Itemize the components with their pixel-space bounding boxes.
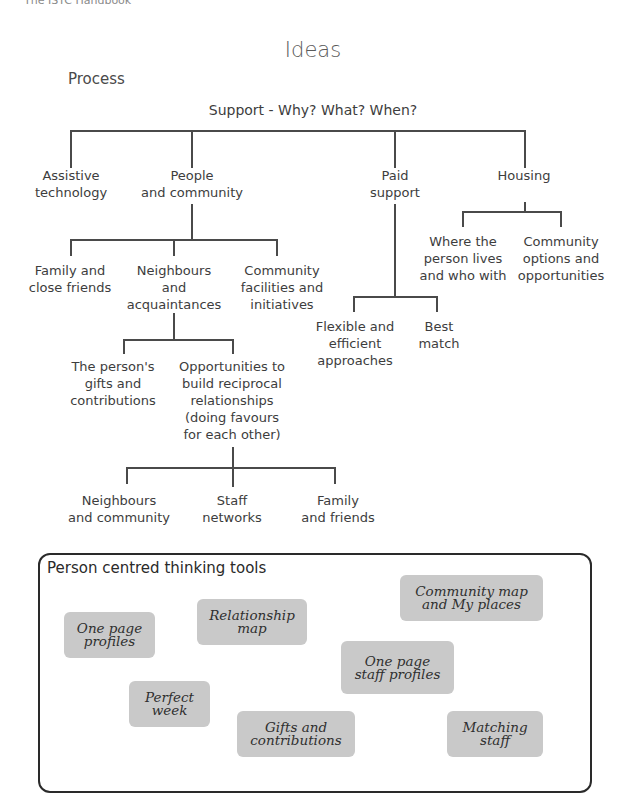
tool-card-matching-staff: Matching staff xyxy=(447,711,543,757)
node-best-match: Best match xyxy=(418,318,459,352)
node-neighbours-acquaintances: Neighbours and acquaintances xyxy=(127,262,222,313)
tree-root: Support - Why? What? When? xyxy=(0,102,626,118)
node-people-and-community: People and community xyxy=(141,167,243,201)
page-title: Ideas xyxy=(0,38,626,62)
running-header: The ISTC Handbook xyxy=(24,0,131,7)
node-neighbours-community: Neighbours and community xyxy=(68,492,170,526)
section-subtitle: Process xyxy=(68,70,125,88)
node-staff-networks: Staff networks xyxy=(202,492,262,526)
node-assistive-technology: Assistive technology xyxy=(35,167,107,201)
tool-card-perfect-week: Perfect week xyxy=(129,681,210,727)
node-family-friends: Family and friends xyxy=(301,492,374,526)
node-community-facilities: Community facilities and initiatives xyxy=(241,262,324,313)
node-community-options: Community options and opportunities xyxy=(518,233,604,284)
node-housing: Housing xyxy=(498,167,551,184)
tools-panel-title: Person centred thinking tools xyxy=(47,559,266,577)
node-flexible-approaches: Flexible and efficient approaches xyxy=(316,318,395,369)
tool-card-one-page-staff-profiles: One page staff profiles xyxy=(341,641,454,694)
tool-card-relationship-map: Relationship map xyxy=(197,599,307,645)
tool-card-one-page-profiles: One page profiles xyxy=(64,612,155,658)
node-where-person-lives: Where the person lives and who with xyxy=(419,233,506,284)
tool-card-community-map: Community map and My places xyxy=(400,575,543,621)
node-reciprocal-opportunities: Opportunities to build reciprocal relati… xyxy=(179,358,285,443)
node-family-close-friends: Family and close friends xyxy=(29,262,111,296)
node-paid-support: Paid support xyxy=(370,167,420,201)
node-gifts-contributions: The person's gifts and contributions xyxy=(70,358,156,409)
tool-card-gifts-contributions: Gifts and contributions xyxy=(237,711,355,757)
